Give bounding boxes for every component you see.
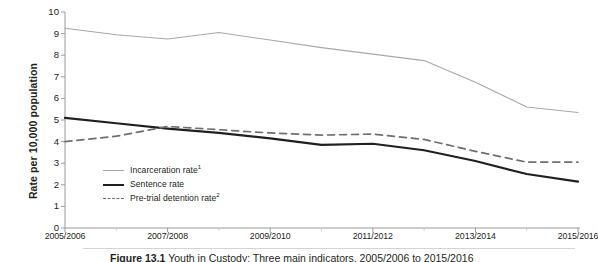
legend-item-label: Sentence rate: [130, 179, 184, 189]
legend-item-sentence-rate[interactable]: Sentence rate: [103, 177, 293, 190]
sentence-line-swatch: [103, 179, 124, 189]
legend-item-label: Incarceration rate1: [130, 165, 201, 175]
incarceration-line-swatch: [103, 165, 124, 175]
legend-item-pre-trial-detention-rate[interactable]: Pre-trial detention rate2: [103, 191, 293, 204]
pretrial-line-swatch: [103, 193, 124, 203]
legend-footnote-marker: 2: [216, 192, 219, 198]
legend-item-incarceration-rate[interactable]: Incarceration rate1: [103, 163, 293, 176]
figure-caption-label: Figure 13.1: [110, 252, 165, 262]
legend-footnote-marker: 1: [198, 164, 201, 170]
caption-divider: [83, 248, 575, 249]
legend-item-label: Pre-trial detention rate2: [130, 193, 220, 203]
figure-caption-body: Youth in Custody: Three main indicators,…: [165, 252, 473, 262]
chart-legend: Incarceration rate1Sentence ratePre-tria…: [103, 163, 293, 205]
chart-series-group: [65, 28, 578, 181]
series-line-incarceration-rate: [65, 28, 578, 112]
figure-caption: Figure 13.1 Youth in Custody: Three main…: [110, 252, 550, 262]
